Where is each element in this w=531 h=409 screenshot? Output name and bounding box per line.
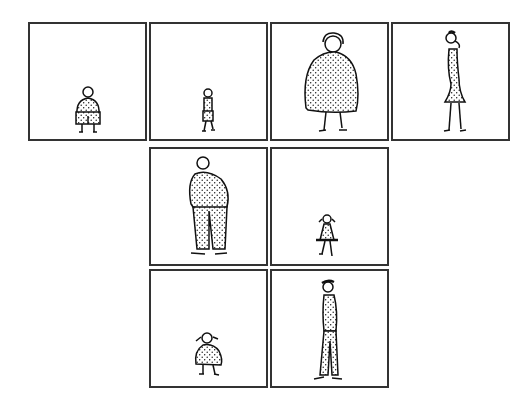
panel-tall-man: tall thin man in trousers [270, 269, 389, 388]
panel-stout-child: short stout child in shorts [28, 22, 147, 141]
panel-thin-boy: small thin boy in shorts [149, 22, 268, 141]
panel-stout-girl: small stout girl with pigtails [149, 269, 268, 388]
panel-large-man: large man in trousers [149, 147, 268, 266]
large-woman-figure [272, 24, 387, 139]
tall-woman-figure [393, 24, 508, 139]
thin-boy-figure [151, 24, 266, 139]
stout-child-figure [30, 24, 145, 139]
panel-tall-woman: tall thin woman in dress with ponytail [391, 22, 510, 141]
stout-girl-figure [151, 271, 266, 386]
panel-large-woman: very large woman in round dress [270, 22, 389, 141]
thin-girl-figure [272, 149, 387, 264]
large-man-figure [151, 149, 266, 264]
panel-thin-girl: small thin girl in skirt with pigtails [270, 147, 389, 266]
tall-man-figure [272, 271, 387, 386]
